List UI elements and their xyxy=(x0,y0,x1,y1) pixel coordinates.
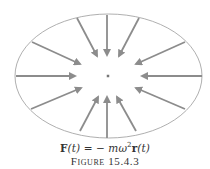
force-equation: F(t) = − mω2r(t) xyxy=(0,141,210,154)
equals-minus: = − xyxy=(80,142,108,154)
force-vector-symbol: F xyxy=(60,142,68,154)
force-arrow xyxy=(31,88,81,109)
center-point xyxy=(107,75,110,78)
time-argument-2: (t) xyxy=(137,142,150,154)
force-arrow xyxy=(117,97,136,131)
force-arrow xyxy=(77,18,97,56)
force-arrow xyxy=(136,88,185,109)
central-force-diagram xyxy=(0,0,210,140)
force-arrow xyxy=(136,42,185,64)
omega-symbol: ω xyxy=(118,142,127,154)
force-arrow xyxy=(119,18,139,56)
mass-symbol: m xyxy=(108,142,118,154)
time-argument: (t) xyxy=(68,142,81,154)
force-arrow xyxy=(32,42,80,64)
force-arrow xyxy=(80,97,98,131)
figure-label: Figure 15.4.3 xyxy=(0,155,210,167)
